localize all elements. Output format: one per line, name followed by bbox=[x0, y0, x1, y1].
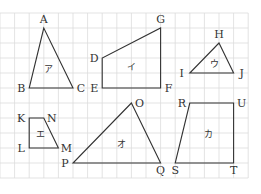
vertex-label-B: B bbox=[17, 82, 25, 95]
vertex-label-L: L bbox=[18, 142, 26, 155]
vertex-label-E: E bbox=[90, 82, 98, 95]
vertex-label-M: M bbox=[61, 142, 72, 155]
vertex-label-D: D bbox=[90, 52, 99, 65]
vertex-label-K: K bbox=[17, 112, 26, 125]
shape-label: ア bbox=[44, 64, 53, 74]
vertex-label-I: I bbox=[180, 67, 184, 80]
vertex-label-P: P bbox=[61, 157, 69, 170]
vertex-label-U: U bbox=[237, 97, 246, 110]
vertex-label-R: R bbox=[178, 97, 187, 110]
grid-figure: ABCアDEFGイHIJウKLMNエOPQオRSTUカ bbox=[0, 0, 261, 194]
vertex-label-J: J bbox=[238, 67, 243, 80]
vertex-label-H: H bbox=[214, 28, 224, 41]
grid bbox=[0, 13, 248, 178]
shape-label: カ bbox=[204, 129, 213, 139]
vertex-label-F: F bbox=[165, 82, 173, 95]
vertex-label-C: C bbox=[77, 82, 85, 95]
shape-label: エ bbox=[36, 129, 45, 139]
vertex-label-N: N bbox=[47, 112, 57, 125]
vertex-label-G: G bbox=[156, 13, 165, 26]
vertex-label-Q: Q bbox=[156, 164, 165, 177]
vertex-label-T: T bbox=[230, 164, 238, 177]
vertex-label-O: O bbox=[135, 97, 144, 110]
shape-label: オ bbox=[117, 139, 126, 149]
vertex-label-S: S bbox=[171, 164, 179, 177]
shape-label: イ bbox=[127, 62, 136, 72]
vertex-label-A: A bbox=[39, 13, 49, 26]
shape-label: ウ bbox=[210, 59, 219, 69]
